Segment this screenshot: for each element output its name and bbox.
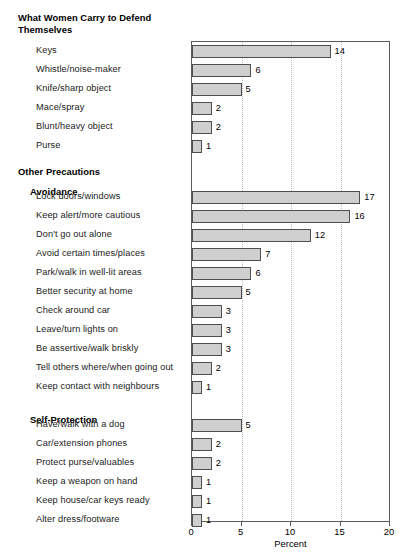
bar-value-label: 2 [216,438,221,451]
category-label: Leave/turn lights on [0,324,222,334]
x-tick-label: 5 [238,526,243,538]
x-axis-title: Percent [191,538,390,549]
bar-value-label: 1 [206,140,211,153]
category-label: Avoid certain times/places [0,248,222,258]
bars-layer: 146522117161276533321522111 [192,42,389,521]
bar [192,83,242,96]
bar-value-label: 1 [206,495,211,508]
category-label: Keep house/car keys ready [0,495,222,505]
bar [192,495,202,508]
bar-value-label: 1 [206,476,211,489]
bar-value-label: 1 [206,381,211,394]
bar-chart: What Women Carry to DefendThemselves Oth… [0,0,413,557]
bar [192,45,331,58]
bar [192,305,222,318]
category-label: Mace/spray [0,102,222,112]
bar [192,457,212,470]
x-axis: 05101520 [191,522,390,538]
category-label: Car/extension phones [0,438,222,448]
category-label: Keys [0,45,222,55]
bar-value-label: 3 [226,305,231,318]
category-label: Park/walk in well-lit areas [0,267,222,277]
bar [192,140,202,153]
bar [192,324,222,337]
bar [192,476,202,489]
bar [192,343,222,356]
bar-value-label: 17 [364,191,374,204]
bar-value-label: 2 [216,121,221,134]
bar [192,191,360,204]
bar-value-label: 14 [335,45,345,58]
category-label: Tell others where/when going out [0,362,222,372]
bar [192,267,251,280]
x-tick-label: 20 [384,526,394,538]
category-label: Check around car [0,305,222,315]
category-label: Whistle/noise-maker [0,64,222,74]
category-label: Be assertive/walk briskly [0,343,222,353]
bar [192,121,212,134]
bar-value-label: 6 [255,64,260,77]
x-tick-label: 0 [188,526,193,538]
bar-value-label: 7 [265,248,270,261]
bar-value-label: 3 [226,324,231,337]
category-label: Keep alert/more cautious [0,210,222,220]
bar-value-label: 2 [216,362,221,375]
bar-value-label: 5 [246,286,251,299]
category-label: Blunt/heavy object [0,121,222,131]
bar [192,229,311,242]
category-label: Protect purse/valuables [0,457,222,467]
category-label: Lock doors/windows [0,191,222,201]
category-label: Purse [0,140,222,150]
bar [192,64,251,77]
category-label: Don't go out alone [0,229,222,239]
bar [192,362,212,375]
x-tick-label: 10 [285,526,295,538]
bar [192,248,261,261]
plot-area: 146522117161276533321522111 [191,41,390,522]
category-label: Keep contact with neighbours [0,381,222,391]
bar [192,381,202,394]
bar-value-label: 16 [354,210,364,223]
bar-value-label: 5 [246,419,251,432]
bar-value-label: 5 [246,83,251,96]
bar [192,286,242,299]
bar-value-label: 6 [255,267,260,280]
bar-value-label: 3 [226,343,231,356]
bar [192,438,212,451]
category-label: Knife/sharp object [0,83,222,93]
category-label: Alter dress/footware [0,514,222,524]
bar-value-label: 2 [216,102,221,115]
x-tick-label: 15 [334,526,344,538]
bar [192,210,350,223]
bar-value-label: 12 [315,229,325,242]
bar [192,102,212,115]
category-label-column: KeysWhistle/noise-makerKnife/sharp objec… [0,0,191,557]
category-label: Have/walk with a dog [0,419,222,429]
bar [192,419,242,432]
bar-value-label: 2 [216,457,221,470]
category-label: Better security at home [0,286,222,296]
category-label: Keep a weapon on hand [0,476,222,486]
